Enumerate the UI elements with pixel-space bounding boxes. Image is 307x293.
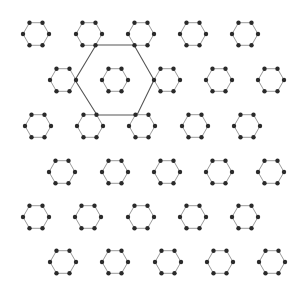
vertex-dot <box>79 204 83 208</box>
ring-edge <box>77 115 103 138</box>
vertex-dot <box>119 249 123 253</box>
vertex-dot <box>106 271 110 275</box>
hexagon-ring <box>100 159 130 186</box>
vertex-dot <box>66 181 70 185</box>
vertex-dot <box>67 249 71 253</box>
ring-edge <box>128 206 154 229</box>
vertex-dot <box>81 135 85 139</box>
vertex-dot <box>94 113 98 117</box>
vertex-dot <box>152 78 156 82</box>
hexagon-ring <box>204 67 234 94</box>
vertex-dot <box>126 32 130 36</box>
vertex-dot <box>197 21 201 25</box>
vertex-dot <box>126 170 130 174</box>
vertex-dot <box>223 67 227 71</box>
vertex-dot <box>80 21 84 25</box>
vertex-dot <box>119 67 123 71</box>
vertex-dot <box>93 43 97 47</box>
vertex-dot <box>40 43 44 47</box>
vertex-dot <box>93 21 97 25</box>
vertex-dot <box>257 260 261 264</box>
vertex-dot <box>262 181 266 185</box>
vertex-dot <box>133 135 137 139</box>
vertex-dot <box>159 271 163 275</box>
vertex-dot <box>210 181 214 185</box>
vertex-dot <box>145 226 149 230</box>
vertex-dot <box>119 181 123 185</box>
ring-edge <box>129 115 155 138</box>
large-hexagon-outline <box>75 45 154 115</box>
vertex-dot <box>132 21 136 25</box>
vertex-dot <box>262 159 266 163</box>
vertex-dot <box>224 271 228 275</box>
vertex-dot <box>40 21 44 25</box>
vertex-dot <box>145 43 149 47</box>
vertex-dot <box>199 113 203 117</box>
hexagon-ring <box>230 204 260 231</box>
hexagon-ring <box>152 159 182 186</box>
vertex-dot <box>132 204 136 208</box>
vertex-dot <box>210 89 214 93</box>
ring-edge <box>234 115 260 138</box>
lattice-canvas <box>0 0 307 293</box>
vertex-dot <box>145 204 149 208</box>
vertex-dot <box>54 89 58 93</box>
vertex-dot <box>23 124 27 128</box>
ring-edge <box>23 23 49 46</box>
vertex-dot <box>119 159 123 163</box>
vertex-dot <box>119 271 123 275</box>
ring-edge <box>206 161 232 184</box>
vertex-dot <box>171 89 175 93</box>
vertex-dot <box>27 226 31 230</box>
hexagon-ring <box>126 21 156 48</box>
vertex-dot <box>159 249 163 253</box>
hexagon-ring <box>127 113 157 140</box>
ring-edge <box>50 69 76 92</box>
vertex-dot <box>206 124 210 128</box>
vertex-dot <box>204 32 208 36</box>
hexagon-ring <box>21 204 51 231</box>
vertex-dot <box>179 260 183 264</box>
vertex-dot <box>100 170 104 174</box>
ring-edge <box>128 23 154 46</box>
vertex-dot <box>126 78 130 82</box>
hexagon-ring <box>178 21 208 48</box>
vertex-dot <box>81 113 85 117</box>
ring-edge <box>50 251 76 274</box>
vertex-dot <box>126 260 130 264</box>
vertex-dot <box>230 78 234 82</box>
vertex-dot <box>238 135 242 139</box>
vertex-dot <box>74 260 78 264</box>
vertex-dot <box>186 113 190 117</box>
vertex-dot <box>197 43 201 47</box>
vertex-dot <box>49 124 53 128</box>
vertex-dot <box>275 67 279 71</box>
vertex-dot <box>236 226 240 230</box>
vertex-dot <box>132 226 136 230</box>
ring-edge <box>258 161 284 184</box>
vertex-dot <box>204 215 208 219</box>
vertex-dot <box>73 170 77 174</box>
vertex-dot <box>211 249 215 253</box>
vertex-dot <box>92 204 96 208</box>
ring-edge <box>232 206 258 229</box>
vertex-dot <box>158 181 162 185</box>
vertex-dot <box>106 67 110 71</box>
vertex-dot <box>236 204 240 208</box>
vertex-dot <box>232 124 236 128</box>
hexagon-ring <box>48 67 78 94</box>
vertex-dot <box>282 170 286 174</box>
hexagon-ring <box>74 21 104 48</box>
vertex-dot <box>133 113 137 117</box>
vertex-dot <box>158 159 162 163</box>
hexagon-ring <box>73 204 103 231</box>
vertex-dot <box>276 249 280 253</box>
vertex-dot <box>184 204 188 208</box>
vertex-dot <box>282 78 286 82</box>
vertex-dot <box>172 249 176 253</box>
vertex-dot <box>74 32 78 36</box>
vertex-dot <box>256 215 260 219</box>
vertex-dot <box>53 181 57 185</box>
vertex-dot <box>21 32 25 36</box>
vertex-dot <box>184 43 188 47</box>
